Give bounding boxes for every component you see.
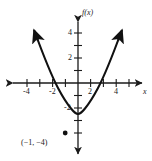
vertex-coordinate-label: (−1, −4) — [21, 139, 47, 147]
y-axis-label: f(x) — [82, 9, 93, 17]
x-tick-label-neg2: -2 — [49, 88, 56, 96]
parabola-right-arrow — [118, 30, 122, 41]
vertex-point-marker — [63, 131, 68, 136]
y-tick-label-pos2: 2 — [68, 54, 72, 62]
x-tick-label-pos4: 4 — [114, 88, 118, 96]
y-tick-label-neg2: -2 — [64, 104, 71, 112]
graph-figure: -4 -2 2 4 4 2 -2 f(x) x (−1, −4) — [0, 0, 152, 161]
x-tick-label-neg4: -4 — [23, 88, 30, 96]
y-tick-label-pos4: 4 — [68, 29, 72, 37]
parabola-left-arrow — [34, 30, 38, 41]
x-tick-label-pos2: 2 — [88, 88, 92, 96]
x-axis-label: x — [143, 88, 147, 96]
parabola-plot — [0, 0, 152, 161]
